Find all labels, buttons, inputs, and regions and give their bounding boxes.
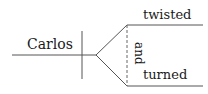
predicate-word-lower: turned <box>143 67 187 82</box>
upper-fork-branch <box>96 25 127 55</box>
subject-word: Carlos <box>27 36 73 52</box>
predicate-word-upper: twisted <box>143 7 191 22</box>
sentence-diagram: Carlos twisted turned and <box>0 0 208 94</box>
lower-fork-branch <box>96 55 127 86</box>
conjunction-word: and <box>132 42 146 65</box>
